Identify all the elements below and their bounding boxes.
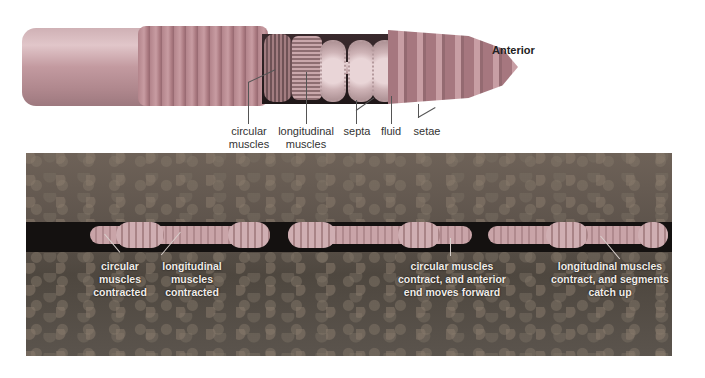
anterior-label: Anterior <box>492 44 535 56</box>
label-fluid: fluid <box>376 125 406 138</box>
label-circular-contracted: circular muscles contracted <box>92 260 148 299</box>
septum-2 <box>348 40 374 102</box>
worm-anterior <box>388 30 518 104</box>
septum-1 <box>320 40 346 102</box>
leader-longitudinal <box>306 72 307 124</box>
label-line: muscles <box>92 273 148 286</box>
label-circular-muscles: circular muscles <box>224 125 274 151</box>
label-line: muscles <box>224 138 274 151</box>
label-line: end moves forward <box>390 286 514 299</box>
label-line: longitudinal muscles <box>548 260 672 273</box>
label-longitudinal-contracted: longitudinal muscles contracted <box>158 260 226 299</box>
stage-2-bulge-front <box>398 222 440 248</box>
label-line: contract, and anterior <box>390 273 514 286</box>
stage-3-bulge-rear <box>546 222 588 248</box>
label-line: circular <box>224 125 274 138</box>
label-line: longitudinal <box>158 260 226 273</box>
label-line: longitudinal <box>276 125 336 138</box>
label-line: circular <box>92 260 148 273</box>
soil-cross-section <box>26 153 672 356</box>
stage-1-bulge-rear <box>116 222 164 248</box>
label-setae: setae <box>410 125 444 138</box>
leader-circular <box>248 82 249 124</box>
label-circular-contract-forward: circular muscles contract, and anterior … <box>390 260 514 299</box>
label-line: circular muscles <box>390 260 514 273</box>
label-line: muscles <box>276 138 336 151</box>
circular-muscle-layer <box>264 34 292 102</box>
stage-3-bulge-front <box>638 222 668 248</box>
leader-stage2 <box>450 238 451 256</box>
stage-1-bulge-front <box>228 222 270 248</box>
leader-setae-diag <box>418 107 436 118</box>
leader-fluid <box>391 96 392 124</box>
label-longitudinal-catch-up: longitudinal muscles contract, and segme… <box>548 260 672 299</box>
label-line: muscles <box>158 273 226 286</box>
label-line: contracted <box>92 286 148 299</box>
label-longitudinal-muscles: longitudinal muscles <box>276 125 336 151</box>
longitudinal-muscle-layer <box>292 36 322 100</box>
label-line: catch up <box>548 286 672 299</box>
label-septa: septa <box>340 125 374 138</box>
stage-2-bulge-rear <box>288 222 336 248</box>
label-line: contracted <box>158 286 226 299</box>
label-line: contract, and segments <box>548 273 672 286</box>
leader-septa <box>356 100 357 124</box>
